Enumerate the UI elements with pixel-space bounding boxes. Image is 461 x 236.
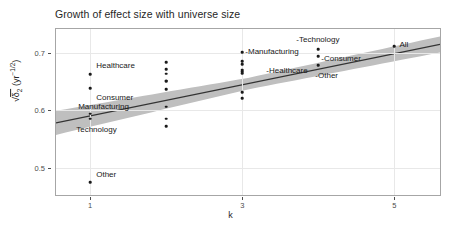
data-point [165,118,168,121]
data-point [165,106,168,109]
gridline-horizontal [56,110,440,111]
data-point [165,68,168,71]
point-label: -Healthcare [266,66,307,75]
gridline-vertical [394,29,395,195]
data-point [89,181,92,184]
y-tick-mark [48,53,51,54]
x-axis-ticks: 135 [55,197,441,209]
data-point [241,63,244,66]
data-point [89,87,92,90]
x-tick-mark [394,197,395,200]
x-tick-mark [242,197,243,200]
data-point [317,55,320,58]
data-point [241,97,244,100]
y-tick-mark [48,168,51,169]
chart-screenshot: Growth of effect size with universe size… [0,0,461,236]
data-point [393,45,396,48]
data-point [165,61,168,64]
y-axis-label: √δ2 (yr−1/2) [9,21,23,141]
y-tick-mark [48,110,51,111]
x-tick-label: 5 [392,201,396,210]
data-point [165,80,168,83]
plot-panel: HealthcareConsumerManufacturingTechnolog… [55,28,441,196]
x-tick-label: 1 [88,201,92,210]
gridline-vertical [242,29,243,195]
data-point [317,48,320,51]
y-tick-label: 0.5 [35,163,45,172]
point-label: Consumer [96,92,133,101]
point-label: Technology [76,124,116,133]
data-point [241,72,244,75]
y-tick-label: 0.7 [35,49,45,58]
x-tick-mark [90,197,91,200]
data-point [89,73,92,76]
data-point [241,91,244,94]
y-tick-label: 0.6 [35,106,45,115]
y-axis-ticks: 0.70.60.5 [30,28,51,196]
point-label: All [399,40,408,49]
point-label: -Manufacturing [245,47,298,56]
data-point [317,64,320,67]
data-point [241,60,244,63]
x-tick-label: 3 [240,201,244,210]
data-point [89,112,92,115]
point-label: -Technology [296,35,339,44]
data-point [241,51,244,54]
point-label: Other [96,170,116,179]
y-axis-label-text: √δ2 (yr−1/2) [11,60,21,102]
data-point [165,72,168,75]
point-label: -Other [315,71,338,80]
point-label: Manufacturing [78,101,129,110]
chart-title: Growth of effect size with universe size [55,8,240,20]
data-point [89,118,92,121]
data-point [165,125,168,128]
data-point [165,88,168,91]
gridline-horizontal [56,168,440,169]
x-axis-label: k [0,210,461,220]
point-label: -Consumer [321,54,361,63]
point-label: Healthcare [96,61,135,70]
